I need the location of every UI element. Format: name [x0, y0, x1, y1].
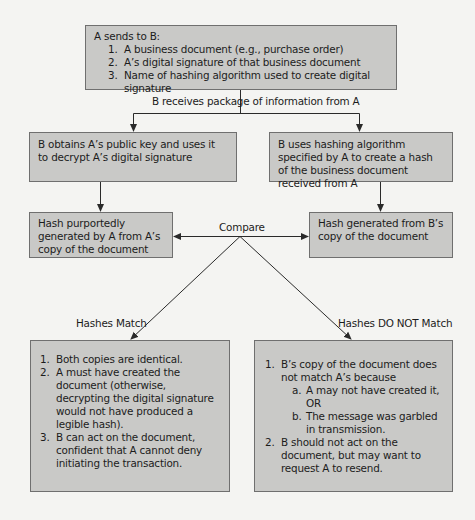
sender-hash-box: Hash purportedly generated by A from A’s… [29, 212, 173, 258]
list-item: 2.A’s digital signature of that business… [108, 56, 388, 69]
list-item: 1.B’s copy of the document does not matc… [265, 358, 442, 436]
match-outcome-list: 1.Both copies are identical. 2.A must ha… [40, 353, 219, 470]
compare-label: Compare [219, 221, 265, 234]
decrypt-signature-box: B obtains A’s public key and uses it to … [29, 132, 237, 182]
receive-label: B receives package of information from A [152, 95, 359, 108]
list-item: 3.Name of hashing algorithm used to crea… [108, 69, 388, 95]
list-item: 3.B can act on the document, confident t… [40, 431, 219, 470]
sub-list-item: a.A may not have created it, OR [265, 384, 442, 410]
sender-package-list: 1.A business document (e.g., purchase or… [94, 43, 388, 95]
hashes-no-match-label: Hashes DO NOT Match [338, 317, 452, 330]
sub-list-item: b.The message was garbled in transmissio… [265, 410, 442, 436]
list-item: 1.Both copies are identical. [40, 353, 219, 366]
receiver-hash-box: Hash generated from B’s copy of the docu… [309, 212, 453, 258]
list-item: 2.B should not act on the document, but … [265, 436, 442, 475]
list-item: 1.A business document (e.g., purchase or… [108, 43, 388, 56]
no-match-outcome-box: 1.B’s copy of the document does not matc… [254, 340, 453, 492]
match-outcome-box: 1.Both copies are identical. 2.A must ha… [30, 340, 230, 492]
list-item: 2.A must have created the document (othe… [40, 366, 219, 431]
create-hash-box: B uses hashing algorithm specified by A … [269, 132, 453, 182]
sender-package-heading: A sends to B: [94, 30, 388, 43]
no-match-outcome-list: 1.B’s copy of the document does not matc… [265, 358, 442, 475]
sender-package-box: A sends to B: 1.A business document (e.g… [85, 25, 397, 90]
hashes-match-label: Hashes Match [76, 317, 147, 330]
